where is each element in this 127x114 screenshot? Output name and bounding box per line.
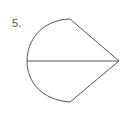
figure-canvas: 5. [0, 0, 127, 114]
triangle-top-edge [70, 19, 119, 61]
triangle-bottom-edge [70, 61, 119, 102]
semicircle-triangle-figure [0, 0, 127, 114]
